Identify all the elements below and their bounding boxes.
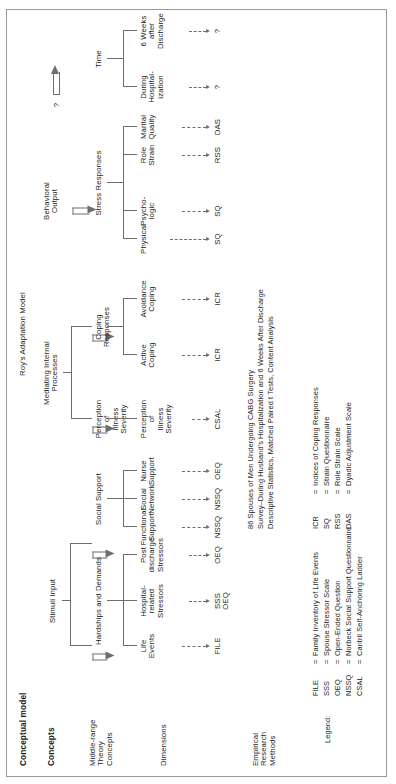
mediating-fork-right (71, 326, 92, 327)
row-label-concepts: Concepts (47, 727, 56, 766)
arrowhead-role-strain (206, 154, 210, 158)
dimension-functional-support: Functional Support (140, 509, 157, 546)
concept-behavioral-output: Behavioral Output (43, 182, 60, 220)
dashed-avoidance-coping (182, 299, 206, 300)
dashed-post-discharge (189, 555, 206, 556)
dashed-hospital-stressors (189, 601, 206, 602)
legend-text-sss: Spouse Stressor Scale (323, 579, 331, 656)
mediating-fork-left (71, 418, 92, 419)
stress-branch-physical (123, 238, 137, 239)
stimuli-stem (62, 600, 70, 601)
arrowhead-life-events (206, 645, 210, 649)
legend-abbr-oeq: OEQ (334, 679, 342, 696)
concept-stimuli-input: Stimuli Input (49, 579, 57, 623)
legend-abbr-csal: CSAL (356, 676, 364, 696)
stress-branch-marital (123, 126, 137, 127)
row-label-empirical-research-methods: Empirical Research Methods (252, 732, 277, 766)
arrowhead-hospital-stressors (206, 600, 210, 604)
legend-abbr-icr: ICR (312, 516, 320, 529)
dashed-during-hospitalization (189, 87, 206, 88)
dashed-psychologic (182, 211, 206, 212)
dimension-marital-quality: Marital Quality (140, 115, 157, 140)
arrowhead-psychologic (206, 210, 210, 214)
sample-note-line3: Descriptive Statistics, Matched Paired t… (267, 316, 275, 529)
dashed-active-coping (182, 355, 206, 356)
dashed-physical (170, 239, 206, 240)
method-nssq-network: NSSQ (214, 488, 222, 511)
legend-abbr-das: DAS (345, 514, 353, 530)
arrowhead-during-hospitalization (206, 86, 210, 90)
arrowhead-nurse-support (206, 470, 210, 474)
arrow-stimuli-to-hardships (93, 652, 115, 661)
sample-note-line1: 86 Spouses of Men Undergoing CABG Surger… (247, 370, 255, 529)
legend-text-nssq: Norbeck Social Support Questionnaire (345, 527, 353, 656)
arrowhead-illness-severity (206, 418, 210, 422)
midrange-perception-illness-severity: Perception of Illness Severity (95, 400, 129, 438)
hardships-branch-postdischarge (123, 554, 137, 555)
legend-text-das: Dyadic Adjustment Scale (345, 402, 353, 486)
dimension-avoidance-coping: Avoidance Coping (140, 280, 157, 317)
method-csal: CSAL (214, 409, 222, 430)
method-sq-psychologic: SQ (214, 205, 222, 216)
method-das: DAS (214, 119, 222, 135)
legend-text-icr: Indices of Coping Responses (312, 387, 320, 486)
mediating-stem (63, 372, 71, 373)
legend-eq-rss: = (334, 490, 342, 494)
method-icr-active: ICR (214, 348, 222, 362)
social-branch-nurse (123, 470, 137, 471)
legend-title: Legend: (324, 716, 332, 743)
legend-eq-nssq: = (345, 660, 353, 664)
arrowhead-avoidance-coping (206, 298, 210, 302)
stress-branch-role-strain (123, 154, 137, 155)
method-six-weeks-unknown: ? (214, 29, 222, 33)
legend-abbr-file: FILE (312, 680, 320, 696)
legend-text-file: Family Inventory of Life Events (312, 552, 320, 656)
dashed-role-strain (182, 155, 206, 156)
stress-stem (107, 182, 123, 183)
legend-text-rss: Role Strain Scale (334, 427, 342, 486)
dimension-nurse-support: Nurse Support (140, 457, 157, 485)
stress-bracket-bar (123, 126, 124, 239)
method-rss: RSS (214, 147, 222, 163)
time-branch-six-weeks (123, 30, 137, 31)
header-roys-adaptation-model: Roy's Adaptation Model (19, 292, 27, 376)
midrange-stress-responses: Stress Responses (95, 151, 103, 216)
stimuli-fork-right (70, 543, 92, 544)
legend-eq-sss: = (323, 660, 331, 664)
method-nssq-functional: NSSQ (214, 516, 222, 539)
social-stem (107, 498, 123, 499)
hardships-branch-life-events (123, 645, 137, 646)
stress-branch-psychologic (123, 210, 137, 211)
arrow-question-to-time (51, 65, 60, 95)
hardships-branch-hospital (123, 600, 137, 601)
dashed-nurse-support (182, 471, 206, 472)
time-stem (107, 58, 123, 59)
coping-branch-avoidance (123, 298, 137, 299)
perception-stem (107, 418, 137, 419)
method-oeq-postdischarge: OEQ (214, 546, 222, 564)
midrange-hardships-and-demands: Hardships and Demands (95, 557, 103, 645)
row-label-middle-range-theory-concepts: Middle-range Theory Concepts (89, 719, 114, 766)
midrange-coping-responses: Coping Responses (95, 307, 112, 347)
dimension-psychologic: Psycho- logic (140, 197, 157, 226)
legend-eq-icr: = (312, 490, 320, 494)
arrowhead-six-weeks (206, 30, 210, 34)
concept-time-question: ? (53, 103, 61, 107)
method-icr-avoidance: ICR (214, 292, 222, 306)
arrow-behavioral-to-stress-responses (73, 206, 97, 215)
legend-eq-csal: = (356, 660, 364, 664)
dimension-during-hospitalization: During Hospital- ization (140, 71, 165, 103)
dashed-six-weeks (189, 31, 206, 32)
legend-abbr-nssq: NSSQ (345, 675, 353, 696)
concept-mediating-internal-processes: Mediating Internal Processes (43, 341, 60, 405)
dimension-six-weeks-after-discharge: 6 Weeks after Discharge (140, 13, 165, 49)
legend-eq-file: = (312, 660, 320, 664)
rotated-figure-stage: Conceptual model Concepts Middle-range T… (0, 0, 396, 784)
midrange-social-support: Social Support (95, 473, 103, 525)
stimuli-fork-bar (70, 543, 71, 646)
legend-eq-sq: = (323, 490, 331, 494)
mediating-fork-bar (71, 326, 72, 419)
legend-text-sq: Strain Questionnaire (323, 417, 331, 486)
header-conceptual-model: Conceptual model (19, 692, 28, 766)
legend-abbr-sss: SSS (323, 681, 331, 696)
